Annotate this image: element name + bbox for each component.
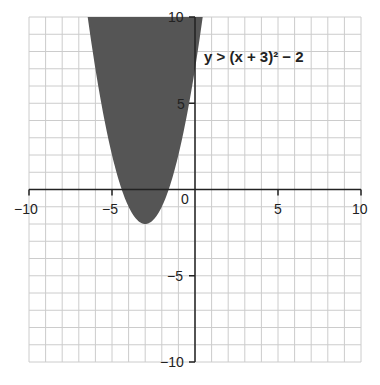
- y-tick-label-10: 10: [168, 10, 184, 24]
- y-tick-label-neg10: −10: [160, 355, 184, 369]
- x-tick-label-neg5: −5: [102, 202, 118, 216]
- x-tick-label-neg10: −10: [14, 202, 38, 216]
- y-tick-label-5: 5: [177, 97, 185, 111]
- inequality-label: y > (x + 3)² − 2: [204, 48, 304, 65]
- coordinate-plane: [0, 0, 380, 385]
- origin-label: 0: [181, 192, 189, 206]
- y-tick-label-neg5: −5: [167, 269, 183, 283]
- x-tick-label-10: 10: [352, 202, 368, 216]
- x-tick-label-5: 5: [274, 202, 282, 216]
